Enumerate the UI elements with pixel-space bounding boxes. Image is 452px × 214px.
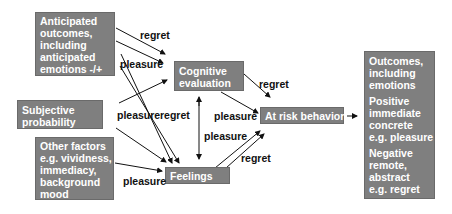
box-text: concrete <box>369 119 430 131</box>
box-text: Other factors <box>40 140 109 152</box>
box-text: e.g. pleasure <box>369 131 430 143</box>
box-text: Cognitive <box>179 65 239 77</box>
label-pleasure-top: pleasure <box>120 58 163 70</box>
label-pleasure-cog-risk: pleasure <box>214 110 257 122</box>
box-text: Subjective <box>22 104 98 116</box>
label-regret-top: regret <box>140 29 170 41</box>
at-risk-behavior-box: At risk behavior <box>260 107 344 124</box>
box-text: immediate <box>369 107 430 119</box>
box-text: including <box>369 67 430 79</box>
box-text: e.g. regret <box>369 183 430 195</box>
feelings-box: Feelings <box>165 167 230 184</box>
box-text: emotions <box>369 79 430 91</box>
box-text: immediacy, <box>40 164 109 176</box>
box-text: anticipated <box>40 51 110 63</box>
label-pleasure-other-feel: pleasure <box>123 175 166 187</box>
box-text: Positive <box>369 95 430 107</box>
anticipated-outcomes-box: Anticipated outcomes, including anticipa… <box>35 12 115 76</box>
box-text: including <box>40 39 110 51</box>
box-text: mood <box>40 188 109 200</box>
box-text: outcomes, <box>40 27 110 39</box>
box-text: evaluation <box>179 77 239 89</box>
box-text: Negative <box>369 147 430 159</box>
box-text: emotions -/+ <box>40 63 110 75</box>
outcomes-paragraph-2: Positive immediate concrete e.g. pleasur… <box>369 95 430 143</box>
box-text: probability <box>22 116 98 128</box>
box-text: At risk behavior <box>265 110 339 122</box>
label-regret-cog-risk: regret <box>259 78 289 90</box>
box-text: e.g. vividness, <box>40 152 109 164</box>
label-regret-mid: regret <box>160 109 190 121</box>
arrow-other-feelings <box>115 163 162 171</box>
label-regret-feel-risk: regret <box>241 152 271 164</box>
outcomes-paragraph-1: Outcomes, including emotions <box>369 55 430 91</box>
label-pleasure-mid: pleasure <box>117 109 160 121</box>
outcomes-paragraph-3: Negative remote, abstract e.g. regret <box>369 147 430 195</box>
box-text: background <box>40 176 109 188</box>
other-factors-box: Other factors e.g. vividness, immediacy,… <box>35 137 114 200</box>
box-text: Outcomes, <box>369 55 430 67</box>
box-text: Anticipated <box>40 15 110 27</box>
outcomes-box: Outcomes, including emotions Positive im… <box>364 51 435 199</box>
box-text: remote, <box>369 159 430 171</box>
box-text: Feelings <box>170 170 225 182</box>
cognitive-evaluation-box: Cognitive evaluation <box>174 61 244 91</box>
label-pleasure-feel-risk: pleasure <box>204 130 247 142</box>
box-text: abstract <box>369 171 430 183</box>
subjective-probability-box: Subjective probability <box>17 100 103 129</box>
arrow-subjective-cognitive <box>119 80 167 103</box>
